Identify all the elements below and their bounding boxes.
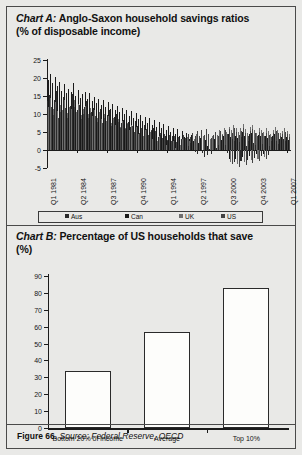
chart-a-legend-label: Aus bbox=[71, 213, 82, 220]
chart-b-plot-area bbox=[48, 276, 286, 428]
chart-a-x-tick-label: Q3 2000 bbox=[230, 178, 237, 205]
chart-a-bar-negative bbox=[195, 150, 196, 152]
chart-a-y-tick-label: 20 bbox=[15, 75, 41, 82]
legend-swatch-icon bbox=[65, 214, 69, 218]
chart-a-x-tick-label: Q3 1987 bbox=[110, 178, 117, 205]
chart-a-title-text: Anglo-Saxon household savings ratios bbox=[59, 12, 250, 24]
chart-a-bar-negative bbox=[268, 150, 269, 155]
figure-footer: Figure 66. Source: Federal Reserve, OECD bbox=[17, 431, 183, 441]
chart-a-x-tick-label: Q1 1981 bbox=[50, 178, 57, 205]
chart-a-title-prefix: Chart A: bbox=[16, 12, 56, 24]
chart-b-x-tick-label: Top 10% bbox=[233, 435, 260, 442]
chart-a-y-tick-label: 25 bbox=[15, 57, 41, 64]
chart-a-panel: Chart A: Anglo-Saxon household savings r… bbox=[7, 7, 295, 224]
chart-a-x-tick-label: Q2 1997 bbox=[200, 178, 207, 205]
chart-b-title-prefix: Chart B: bbox=[16, 230, 57, 242]
chart-a-y-tick-label: 5 bbox=[15, 129, 41, 136]
chart-b-y-tick-label: 20 bbox=[16, 391, 42, 398]
chart-a-bar-negative bbox=[207, 150, 208, 155]
chart-b-subtitle: (%) bbox=[16, 243, 32, 255]
chart-b-y-tick-label: 30 bbox=[16, 374, 42, 381]
chart-a-title: Chart A: Anglo-Saxon household savings r… bbox=[16, 12, 288, 37]
chart-b-title: Chart B: Percentage of US households tha… bbox=[16, 230, 288, 255]
legend-swatch-icon bbox=[125, 214, 129, 218]
chart-a-x-tick-label: Q1 2007 bbox=[290, 178, 297, 205]
chart-b-x-tick-mark bbox=[207, 429, 209, 433]
figure-frame: Chart A: Anglo-Saxon household savings r… bbox=[6, 6, 296, 449]
chart-b-x-axis-line bbox=[48, 428, 289, 430]
chart-b-y-tick-label: 40 bbox=[16, 357, 42, 364]
chart-a-bar-negative bbox=[197, 150, 198, 154]
footer-divider bbox=[7, 424, 295, 425]
chart-b-bar bbox=[144, 332, 190, 428]
chart-a-x-tick-label: Q1 1994 bbox=[170, 178, 177, 205]
figure-number: Figure 66. bbox=[17, 431, 57, 441]
legend-swatch-icon bbox=[221, 214, 225, 218]
chart-a-legend: AusCanUKUS bbox=[38, 211, 263, 223]
chart-b-y-tick-mark bbox=[44, 428, 48, 429]
chart-b-panel: Chart B: Percentage of US households tha… bbox=[7, 226, 295, 423]
chart-a-bar bbox=[289, 137, 290, 150]
chart-a-x-tick-label: Q2 1984 bbox=[80, 178, 87, 205]
chart-b-title-text: Percentage of US households that save bbox=[59, 230, 253, 242]
chart-b-bar bbox=[65, 371, 111, 428]
chart-a-negative-area bbox=[47, 150, 290, 168]
chart-a-y-tick-label: 15 bbox=[15, 93, 41, 100]
chart-a-y-tick-label: 10 bbox=[15, 111, 41, 118]
chart-a-legend-item: US bbox=[221, 213, 236, 220]
chart-a-bar-negative bbox=[211, 150, 212, 154]
chart-b-y-tick-label: 70 bbox=[16, 306, 42, 313]
chart-a-legend-item: Can bbox=[125, 213, 143, 220]
chart-a-y-tick-label: 0 bbox=[15, 147, 41, 154]
chart-a-y-tick-mark bbox=[43, 168, 47, 169]
chart-a-bar-negative bbox=[202, 150, 203, 153]
chart-a-x-tick-label: Q4 1990 bbox=[140, 178, 147, 205]
chart-b-y-tick-label: 50 bbox=[16, 340, 42, 347]
chart-a-subtitle: (% of disposable income) bbox=[16, 25, 140, 37]
chart-a-bar-negative bbox=[204, 150, 205, 157]
chart-a-x-tick-label: Q4 2003 bbox=[260, 178, 267, 205]
chart-b-y-tick-label: 90 bbox=[16, 273, 42, 280]
chart-b-y-tick-label: 80 bbox=[16, 289, 42, 296]
chart-a-legend-label: Can bbox=[131, 213, 143, 220]
chart-a-legend-label: US bbox=[227, 213, 236, 220]
chart-b-y-tick-label: 10 bbox=[16, 408, 42, 415]
chart-b-y-tick-label: 60 bbox=[16, 323, 42, 330]
figure-container: Chart A: Anglo-Saxon household savings r… bbox=[0, 0, 302, 455]
figure-source: Source: Federal Reserve, OECD bbox=[60, 431, 184, 441]
chart-a-plot-area bbox=[47, 60, 290, 150]
chart-b-bar bbox=[223, 288, 269, 428]
legend-swatch-icon bbox=[179, 214, 183, 218]
chart-a-legend-item: UK bbox=[179, 213, 194, 220]
chart-a-legend-label: UK bbox=[185, 213, 194, 220]
chart-a-y-tick-label: -5 bbox=[15, 165, 41, 172]
chart-a-legend-item: Aus bbox=[65, 213, 82, 220]
